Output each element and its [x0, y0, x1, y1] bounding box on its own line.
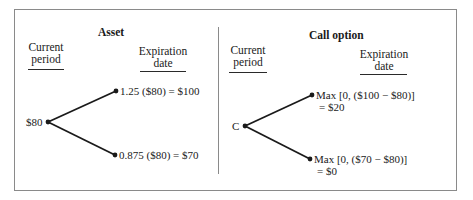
- call-up-branch: [245, 95, 312, 126]
- call-root-node: [243, 124, 248, 129]
- call-down-node: [308, 157, 313, 162]
- asset-up-branch: [48, 91, 116, 122]
- asset-up-label: 1.25 ($80) = $100: [120, 85, 200, 97]
- asset-up-node: [114, 89, 119, 94]
- call-root-label: C: [232, 120, 239, 132]
- asset-down-node: [113, 153, 118, 158]
- payoff-value: = $0: [314, 165, 407, 177]
- payoff-formula: Max [0, ($100 − $80)]: [316, 89, 415, 101]
- call-down-branch: [245, 126, 310, 159]
- asset-root-node: [46, 120, 51, 125]
- call-up-node: [310, 93, 315, 98]
- call-down-label: Max [0, ($70 − $80)] = $0: [314, 153, 407, 177]
- asset-down-branch: [48, 122, 115, 155]
- call-up-label: Max [0, ($100 − $80)] = $20: [316, 89, 415, 113]
- asset-down-label: 0.875 ($80) = $70: [119, 149, 199, 161]
- payoff-value: = $20: [316, 101, 415, 113]
- asset-root-label: $80: [26, 116, 43, 128]
- payoff-formula: Max [0, ($70 − $80)]: [314, 153, 407, 165]
